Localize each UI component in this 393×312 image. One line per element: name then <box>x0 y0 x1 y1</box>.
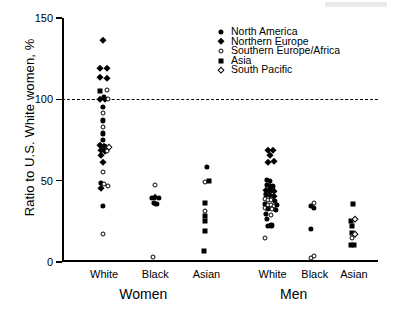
y-tick-label: 100 <box>35 94 53 105</box>
data-point <box>312 254 317 259</box>
y-tick-mark <box>56 261 62 262</box>
figure: Ratio to U.S. White women, % 050100150 N… <box>0 0 393 312</box>
data-point <box>105 97 110 102</box>
data-point <box>153 182 158 187</box>
data-point <box>204 164 209 169</box>
data-point <box>100 169 105 174</box>
x-axis-line <box>62 260 378 262</box>
data-point <box>350 236 355 241</box>
data-point <box>154 202 159 207</box>
x-tick-label-women-asian: Asian <box>193 268 221 280</box>
data-point <box>268 212 273 217</box>
data-point <box>100 137 105 142</box>
data-point <box>352 242 357 247</box>
data-point <box>202 229 207 234</box>
data-point <box>312 205 317 210</box>
data-point <box>202 218 207 223</box>
legend: North AmericaNorthern EuropeSouthern Eur… <box>218 27 340 75</box>
data-point <box>263 235 268 240</box>
data-point <box>273 207 278 212</box>
data-point <box>97 64 103 70</box>
y-tick-label: 0 <box>47 257 53 268</box>
y-tick-mark <box>56 17 62 18</box>
data-point <box>269 223 274 228</box>
data-point <box>100 231 105 236</box>
data-point <box>202 201 207 206</box>
y-axis-title: Ratio to U.S. White women, % <box>22 13 37 243</box>
legend-marker-icon <box>218 29 223 34</box>
legend-marker-icon <box>219 58 224 63</box>
data-point <box>104 75 110 81</box>
data-point <box>271 158 277 164</box>
data-point <box>101 124 106 129</box>
data-point <box>100 159 106 165</box>
data-point <box>103 64 109 70</box>
legend-marker-icon <box>218 38 224 44</box>
group-label-women: Women <box>119 286 167 302</box>
legend-marker-icon <box>219 48 224 53</box>
y-tick-mark <box>56 180 62 181</box>
data-point <box>100 118 105 123</box>
data-point <box>104 149 109 154</box>
data-point <box>105 183 110 188</box>
scan-artifact <box>325 2 387 7</box>
data-point <box>105 88 110 93</box>
data-point <box>308 226 313 231</box>
data-point <box>156 195 161 200</box>
data-point <box>98 89 103 94</box>
data-point <box>351 202 356 207</box>
data-point <box>264 216 269 221</box>
y-axis-line <box>62 18 64 262</box>
x-tick-label-women-black: Black <box>142 268 169 280</box>
y-tick-label: 150 <box>35 13 53 24</box>
data-point <box>349 224 354 229</box>
x-tick-label-men-asian: Asian <box>340 268 368 280</box>
data-point <box>97 74 103 80</box>
data-point <box>100 104 105 109</box>
data-point <box>151 255 156 260</box>
data-point <box>100 111 105 116</box>
x-tick-label-men-black: Black <box>301 268 328 280</box>
data-point <box>100 37 106 43</box>
legend-marker-icon <box>218 67 225 74</box>
data-point <box>206 178 211 183</box>
data-point <box>100 131 105 136</box>
legend-label: South Pacific <box>231 65 292 75</box>
data-point <box>100 203 105 208</box>
x-tick-label-men-white: White <box>259 268 287 280</box>
group-label-men: Men <box>280 286 307 302</box>
data-point <box>202 249 207 254</box>
y-tick-label: 50 <box>41 175 53 186</box>
legend-item: South Pacific <box>218 65 340 75</box>
x-tick-label-women-white: White <box>90 268 118 280</box>
